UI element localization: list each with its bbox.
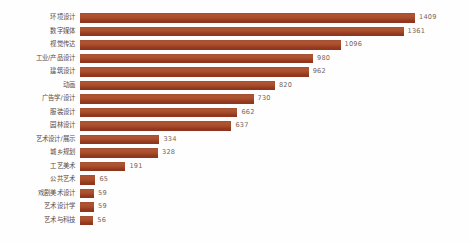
bar-row: 园林设计637 [0, 119, 469, 133]
bar-track: 65 [80, 173, 465, 187]
bar-track: 59 [80, 187, 465, 201]
bar [80, 13, 415, 23]
bar-value-label: 980 [317, 55, 330, 62]
category-label: 艺术设计学 [0, 200, 75, 214]
bar-track: 662 [80, 106, 465, 120]
bar [80, 81, 275, 91]
bar-value-label: 65 [99, 176, 108, 183]
bar [80, 148, 158, 158]
bar-row: 艺术设计/展示334 [0, 133, 469, 147]
bar-row: 工业/产品设计980 [0, 52, 469, 66]
bar-value-label: 328 [162, 149, 175, 156]
bar-row: 视觉传达1096 [0, 38, 469, 52]
category-label: 公共艺术 [0, 173, 75, 187]
bar-row: 数字媒体1361 [0, 25, 469, 39]
bar-row: 艺术设计学59 [0, 200, 469, 214]
bar-track: 59 [80, 200, 465, 214]
bar-row: 动画820 [0, 79, 469, 93]
bar [80, 108, 237, 118]
bar [80, 94, 254, 104]
bar-row: 环境设计1409 [0, 11, 469, 25]
bar-row: 广告学/设计730 [0, 92, 469, 106]
horizontal-bar-chart: 环境设计1409数字媒体1361视觉传达1096工业/产品设计980建筑设计96… [0, 0, 469, 243]
category-label: 园林设计 [0, 119, 75, 133]
category-label: 城乡规划 [0, 146, 75, 160]
bar-track: 962 [80, 65, 465, 79]
category-label: 数字媒体 [0, 25, 75, 39]
category-label: 工艺美术 [0, 160, 75, 174]
bar-value-label: 191 [129, 163, 142, 170]
bar-track: 1096 [80, 38, 465, 52]
bar-value-label: 730 [258, 95, 271, 102]
bar-value-label: 56 [97, 217, 106, 224]
bar-row: 服装设计662 [0, 106, 469, 120]
category-label: 艺术设计/展示 [0, 133, 75, 147]
bar-track: 328 [80, 146, 465, 160]
category-label: 艺术与科技 [0, 214, 75, 228]
bar [80, 27, 404, 37]
bar-row: 艺术与科技56 [0, 214, 469, 228]
bar-value-label: 820 [279, 82, 292, 89]
bar-track: 56 [80, 214, 465, 228]
bar-track: 730 [80, 92, 465, 106]
bar [80, 202, 94, 212]
bar [80, 67, 309, 77]
bar-track: 191 [80, 160, 465, 174]
category-label: 视觉传达 [0, 38, 75, 52]
bar [80, 54, 313, 64]
bar-row: 城乡规划328 [0, 146, 469, 160]
bar-value-label: 59 [98, 203, 107, 210]
bar [80, 40, 341, 50]
category-label: 服装设计 [0, 106, 75, 120]
category-label: 广告学/设计 [0, 92, 75, 106]
bar [80, 175, 95, 185]
bar [80, 162, 125, 172]
bar-value-label: 637 [235, 122, 248, 129]
bar [80, 135, 159, 145]
bar-track: 1361 [80, 25, 465, 39]
bar-value-label: 962 [313, 68, 326, 75]
bar-track: 637 [80, 119, 465, 133]
bar-track: 820 [80, 79, 465, 93]
category-label: 戏剧美术设计 [0, 187, 75, 201]
bar [80, 121, 231, 131]
category-label: 动画 [0, 79, 75, 93]
chart-plot-area: 环境设计1409数字媒体1361视觉传达1096工业/产品设计980建筑设计96… [0, 11, 469, 237]
category-label: 建筑设计 [0, 65, 75, 79]
bar [80, 216, 93, 226]
bar-value-label: 662 [241, 109, 254, 116]
category-label: 工业/产品设计 [0, 52, 75, 66]
bar-value-label: 59 [98, 190, 107, 197]
bar-row: 工艺美术191 [0, 160, 469, 174]
bar [80, 189, 94, 199]
bar-value-label: 1361 [408, 28, 426, 35]
bar-row: 戏剧美术设计59 [0, 187, 469, 201]
bar-value-label: 334 [163, 136, 176, 143]
bar-value-label: 1096 [345, 41, 363, 48]
bar-value-label: 1409 [419, 14, 437, 21]
bar-row: 公共艺术65 [0, 173, 469, 187]
bar-row: 建筑设计962 [0, 65, 469, 79]
bar-track: 1409 [80, 11, 465, 25]
bar-track: 980 [80, 52, 465, 66]
bar-track: 334 [80, 133, 465, 147]
category-label: 环境设计 [0, 11, 75, 25]
